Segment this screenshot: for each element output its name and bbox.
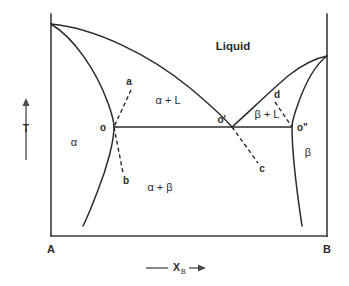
x-axis-arrow-head-icon [198, 265, 206, 272]
marker-label-d: d [274, 89, 280, 100]
axis-endpoint-label-b: B [323, 243, 331, 255]
phase-diagram-figure: Liquid α α + L α + β β + L β o o' o" a b… [0, 0, 349, 286]
marker-label-a: a [126, 76, 132, 87]
y-axis-arrow-head-icon [23, 98, 30, 106]
point-label-o-prime: o' [218, 114, 227, 125]
phase-diagram-svg: Liquid α α + L α + β β + L β o o' o" a b… [0, 0, 349, 286]
region-label-beta-plus-liquid: β + L [255, 108, 280, 120]
marker-label-c: c [259, 163, 265, 174]
dashed-segment-a-to-o [114, 90, 131, 127]
beta-solvus-curve [292, 56, 327, 226]
x-axis-label-subscript-B: B [181, 268, 186, 275]
dashed-segment-o-prime-to-c [232, 127, 258, 163]
region-label-beta: β [305, 146, 311, 158]
region-label-alpha-plus-liquid: α + L [155, 94, 180, 106]
dashed-segment-o-to-b [114, 127, 123, 173]
marker-label-b: b [123, 175, 129, 186]
point-label-o-double-prime: o" [297, 122, 308, 133]
x-axis-label-group: X B [146, 261, 206, 275]
region-label-alpha: α [71, 136, 78, 148]
y-axis-label-group: T [20, 98, 32, 160]
region-label-alpha-plus-beta: α + β [147, 181, 172, 193]
liquidus-alpha-curve [51, 24, 232, 127]
y-axis-label-T: T [23, 122, 30, 134]
x-axis-label-X: X [173, 261, 180, 273]
axis-endpoint-label-a: A [47, 243, 55, 255]
point-label-o: o [100, 122, 106, 133]
region-label-liquid: Liquid [216, 40, 251, 52]
